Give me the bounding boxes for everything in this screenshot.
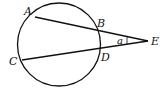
angle-label-a: a — [117, 35, 123, 46]
geometry-diagram: A B E C D a — [0, 0, 164, 91]
secant-AE — [35, 17, 148, 41]
label-C: C — [9, 55, 18, 68]
secant-CE — [22, 41, 148, 60]
label-A: A — [23, 5, 32, 18]
label-D: D — [100, 51, 110, 64]
label-E: E — [150, 35, 159, 48]
label-B: B — [96, 17, 105, 30]
